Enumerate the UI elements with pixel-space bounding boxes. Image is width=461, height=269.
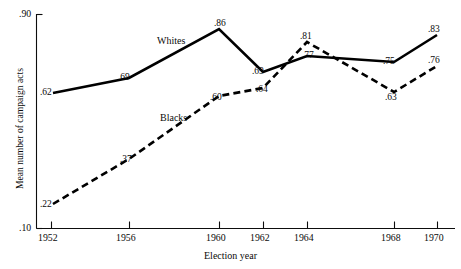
series-line-whites (53, 29, 437, 93)
y-axis-title: Mean number of campaign acts (15, 68, 25, 189)
y-axis-top-label: .90 (19, 9, 31, 19)
x-tick-label-1964: 1964 (294, 233, 314, 243)
point-label-whites-1964: .77 (302, 51, 314, 61)
point-label-blacks-1952: .22 (40, 200, 52, 210)
point-label-whites-1962: .69 (252, 67, 264, 77)
x-tick-label-1952: 1952 (38, 233, 58, 243)
point-label-blacks-1960: .60 (210, 93, 222, 103)
point-label-whites-1970: .83 (428, 25, 440, 35)
series-label-blacks: Blacks (160, 113, 187, 123)
point-label-whites-1952: .62 (40, 88, 52, 98)
point-label-blacks-1956: .37 (120, 155, 132, 165)
y-axis-bottom-label: .10 (19, 223, 31, 233)
point-label-whites-1960: .86 (214, 19, 226, 29)
x-tick-label-1960: 1960 (206, 233, 226, 243)
point-label-blacks-1968: .63 (385, 93, 397, 103)
point-label-blacks-1962: .64 (256, 85, 268, 95)
point-label-whites-1968: .75 (383, 57, 395, 67)
series-label-whites: Whites (157, 36, 185, 46)
series-line-blacks (53, 42, 437, 204)
point-label-blacks-1970: .76 (428, 56, 440, 66)
x-tick-label-1962: 1962 (250, 233, 270, 243)
x-tick-label-1970: 1970 (424, 233, 444, 243)
x-tick-label-1956: 1956 (116, 233, 136, 243)
chart-plot-area (0, 0, 461, 269)
point-label-blacks-1964: .81 (300, 32, 312, 42)
point-label-whites-1956: .69 (118, 73, 130, 83)
x-tick-label-1968: 1968 (381, 233, 401, 243)
x-axis-title: Election year (204, 251, 257, 261)
chart-container: .90 .10 Mean number of campaign acts 195… (0, 0, 461, 269)
